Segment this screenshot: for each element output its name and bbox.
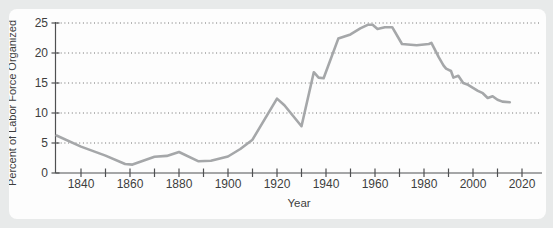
y-tick-label: 25 xyxy=(35,16,49,30)
tick-labels: 0510152025184018601880190019201940196019… xyxy=(35,16,536,191)
x-tick-label: 1900 xyxy=(215,177,242,191)
x-tick-label: 2020 xyxy=(509,177,536,191)
x-tick-label: 1940 xyxy=(313,177,340,191)
y-tick-label: 0 xyxy=(41,166,48,180)
y-tick-label: 10 xyxy=(35,106,49,120)
data-series-line xyxy=(57,25,510,165)
axis-ticks xyxy=(52,23,523,177)
x-tick-label: 1960 xyxy=(362,177,389,191)
x-tick-label: 1880 xyxy=(166,177,193,191)
x-axis-title: Year xyxy=(287,197,310,209)
chart-card: 0510152025184018601880190019201940196019… xyxy=(9,9,546,219)
y-tick-label: 15 xyxy=(35,76,49,90)
x-tick-label: 1840 xyxy=(68,177,95,191)
axes xyxy=(56,22,543,173)
y-tick-label: 5 xyxy=(41,136,48,150)
x-tick-label: 1920 xyxy=(264,177,291,191)
x-tick-label: 1980 xyxy=(411,177,438,191)
labor-force-line-chart: 0510152025184018601880190019201940196019… xyxy=(9,9,546,219)
gridlines xyxy=(57,23,540,143)
x-tick-label: 1860 xyxy=(117,177,144,191)
x-tick-label: 2000 xyxy=(460,177,487,191)
y-tick-label: 20 xyxy=(35,46,49,60)
y-axis-title: Percent of Labor Force Organized xyxy=(9,20,18,186)
